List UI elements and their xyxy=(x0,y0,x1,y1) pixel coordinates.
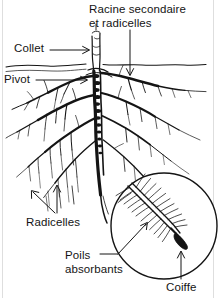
lateral-roots-right xyxy=(101,65,206,180)
leader-racine-secondaire xyxy=(126,30,133,76)
label-radicelles: Radicelles xyxy=(26,216,80,230)
label-collet: Collet xyxy=(14,42,44,56)
stem-collar xyxy=(92,24,100,71)
lateral-roots-left xyxy=(6,76,96,211)
root-system-diagram: Racine secondaire et radicelles Collet P… xyxy=(0,0,218,298)
leader-radicelles xyxy=(31,185,60,213)
label-coiffe: Coiffe xyxy=(166,281,196,295)
label-poils-absorbants: Poils absorbants xyxy=(65,249,123,276)
label-pivot: Pivot xyxy=(4,73,30,87)
label-racine-secondaire: Racine secondaire et radicelles xyxy=(89,3,186,30)
leader-collet xyxy=(50,46,90,53)
